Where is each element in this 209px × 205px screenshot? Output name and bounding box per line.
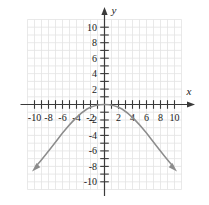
x-tick-label: -8 [44, 112, 52, 123]
y-tick-label: -2 [89, 114, 97, 125]
x-tick-label: 2 [116, 112, 121, 123]
y-tick-label: -4 [89, 130, 97, 141]
y-tick-label: -6 [89, 145, 97, 156]
y-tick-label: 2 [92, 84, 97, 95]
x-tick-label: 8 [158, 112, 163, 123]
x-tick-label: 6 [144, 112, 149, 123]
y-tick-label: -8 [89, 161, 97, 172]
y-tick-label: 10 [87, 22, 97, 33]
x-tick-label: 10 [170, 112, 180, 123]
graph-figure: -10 -8 -6 -4 -2 2 4 6 8 10 10 8 6 4 2 -2… [0, 0, 209, 205]
x-tick-label: -6 [58, 112, 66, 123]
y-tick-label: -10 [84, 176, 97, 187]
y-tick-label: 4 [92, 68, 97, 79]
x-axis-label: x [186, 85, 192, 97]
y-tick-label: 8 [92, 37, 97, 48]
y-axis-label: y [111, 4, 117, 16]
coordinate-plane-chart: -10 -8 -6 -4 -2 2 4 6 8 10 10 8 6 4 2 -2… [0, 0, 209, 205]
y-tick-label: 6 [92, 53, 97, 64]
x-tick-label: -10 [28, 112, 41, 123]
